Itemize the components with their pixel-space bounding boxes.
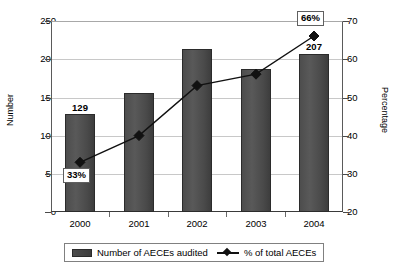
x-tick-2003: 2003 (226, 218, 286, 229)
y-tick-right-30: 30 (347, 169, 377, 179)
x-tick-2004: 2004 (284, 218, 344, 229)
tickmark-right-70 (343, 21, 349, 22)
pct-callout-2004: 66% (297, 11, 324, 26)
legend-bar-swatch-icon (72, 249, 92, 257)
x-tick-2001: 2001 (109, 218, 169, 229)
tickmark-x-2 (168, 212, 169, 217)
tickmark-right-40 (343, 136, 349, 137)
marker-2000[interactable] (75, 157, 85, 167)
percentage-line-path (80, 36, 314, 162)
x-tick-2000: 2000 (50, 218, 110, 229)
legend-item-bars[interactable]: Number of AECEs audited (72, 247, 208, 258)
y-tick-right-70: 70 (347, 16, 377, 26)
y-tick-right-60: 60 (347, 54, 377, 64)
y-axis-title-right: Percentage (380, 80, 390, 140)
y-tick-right-20: 20 (347, 207, 377, 217)
legend-item-line[interactable]: % of total AECEs (217, 247, 316, 258)
percentage-markers (75, 31, 319, 167)
chart-container: Number Percentage 250 200 150 100 50 0 7… (0, 0, 397, 267)
percentage-line-series (51, 21, 343, 212)
tickmark-left-0 (45, 212, 51, 213)
pct-callout-2000: 33% (63, 168, 90, 183)
y-axis-title-left: Number (5, 80, 15, 140)
tickmark-right-50 (343, 98, 349, 99)
legend-line-marker-icon (217, 248, 239, 257)
x-tick-2002: 2002 (167, 218, 227, 229)
tickmark-x-1 (109, 212, 110, 217)
y-tick-right-50: 50 (347, 93, 377, 103)
legend-label-line: % of total AECEs (244, 247, 316, 258)
tickmark-right-20 (343, 212, 349, 213)
tickmark-right-60 (343, 59, 349, 60)
y-tick-right-40: 40 (347, 131, 377, 141)
legend-label-bars: Number of AECEs audited (97, 247, 208, 258)
marker-2003[interactable] (251, 69, 261, 79)
tickmark-x-3 (226, 212, 227, 217)
chart-legend: Number of AECEs audited % of total AECEs (64, 243, 324, 262)
tickmark-right-30 (343, 174, 349, 175)
tickmark-x-4 (285, 212, 286, 217)
marker-2004[interactable] (309, 31, 319, 41)
